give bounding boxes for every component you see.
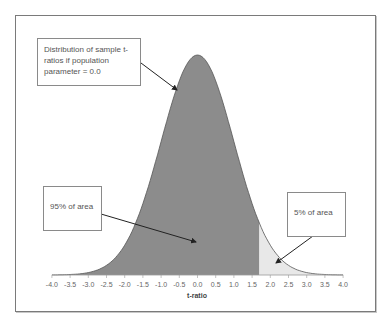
x-axis-ticks: -4.0-3.5-3.0-2.5-2.0-1.5-1.0-0.50.00.51.…	[46, 275, 348, 288]
x-tick-label: 2.0	[265, 281, 275, 288]
x-tick-label: 1.5	[247, 281, 257, 288]
x-tick-label: -1.5	[137, 281, 149, 288]
x-tick-label: -1.0	[155, 281, 167, 288]
x-tick-label: 4.0	[338, 281, 348, 288]
x-tick-label: -2.0	[119, 281, 131, 288]
arrow-5-percent	[276, 236, 313, 263]
x-tick-label: 1.0	[229, 281, 239, 288]
x-tick-label: 3.5	[320, 281, 330, 288]
x-axis-label: t-ratio	[187, 292, 207, 299]
x-tick-label: 3.0	[302, 281, 312, 288]
x-tick-label: 0.5	[211, 281, 221, 288]
area-95-percent	[52, 55, 260, 275]
x-tick-label: -4.0	[46, 281, 58, 288]
annotation-5-percent: 5% of area	[287, 192, 346, 237]
x-tick-label: 0.0	[193, 281, 203, 288]
annotation-distribution: Distribution of sample t-ratios if popul…	[37, 38, 141, 86]
x-tick-label: -0.5	[173, 281, 185, 288]
x-tick-label: -2.5	[100, 281, 112, 288]
x-tick-label: -3.0	[82, 281, 94, 288]
arrow-distribution	[141, 63, 177, 90]
annotation-95-percent: 95% of area	[43, 186, 102, 231]
x-tick-label: -3.5	[64, 281, 76, 288]
x-tick-label: 2.5	[284, 281, 294, 288]
